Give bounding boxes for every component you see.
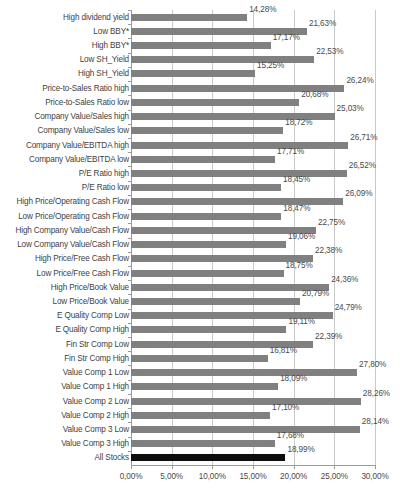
bar-value-label: 26,09% — [345, 189, 372, 198]
y-axis-tick — [128, 408, 131, 409]
category-label: Low Price/Free Cash Flow — [0, 269, 129, 278]
category-label: P/E Ratio low — [0, 183, 129, 192]
y-axis-tick — [128, 152, 131, 153]
category-label: Company Value/EBITDA low — [0, 155, 129, 164]
bar-value-label: 26,52% — [349, 161, 376, 170]
category-label: Value Comp 2 High — [0, 411, 129, 420]
x-axis-tick — [294, 465, 295, 469]
y-axis-tick — [128, 323, 131, 324]
category-label: Value Comp 3 Low — [0, 425, 129, 434]
y-axis-tick — [128, 110, 131, 111]
plot-area: 14,28%21,63%17,17%22,53%15,25%26,24%20,6… — [131, 10, 375, 465]
category-label: Value Comp 3 High — [0, 439, 129, 448]
category-label: Fin Str Comp Low — [0, 340, 129, 349]
x-axis-tick — [172, 465, 173, 469]
bar — [131, 241, 286, 248]
x-axis-tick-label: 30,00% — [361, 472, 388, 482]
bar — [131, 70, 255, 77]
bar-value-label: 22,38% — [315, 246, 342, 255]
category-label: P/E Ratio high — [0, 169, 129, 178]
y-axis-tick — [128, 394, 131, 395]
bar-value-label: 19,11% — [288, 317, 315, 326]
x-axis-tick-label: 5,00% — [160, 472, 183, 482]
y-axis-tick — [128, 10, 131, 11]
bar — [131, 156, 275, 163]
category-label: Low Company Value/Cash Flow — [0, 240, 129, 249]
bar — [131, 99, 299, 106]
y-axis-tick — [128, 195, 131, 196]
y-axis-tick — [128, 223, 131, 224]
category-label: E Quality Comp Low — [0, 311, 129, 320]
bar — [131, 298, 300, 305]
y-axis-tick — [128, 351, 131, 352]
y-axis-tick — [128, 166, 131, 167]
bar-value-label: 17,71% — [277, 147, 304, 156]
x-axis-tick — [334, 465, 335, 469]
bar — [131, 426, 360, 433]
bar — [131, 198, 343, 205]
category-label: High Price/Operating Cash Flow — [0, 197, 129, 206]
bar — [131, 127, 283, 134]
category-label: High SH_Yield — [0, 69, 129, 78]
bar-value-label: 15,25% — [257, 61, 284, 70]
bar — [131, 398, 361, 405]
y-axis-tick — [128, 38, 131, 39]
y-axis-tick — [128, 294, 131, 295]
bar — [131, 184, 281, 191]
category-label: Company Value/EBITDA high — [0, 141, 129, 150]
y-axis-tick — [128, 380, 131, 381]
category-label: Company Value/Sales high — [0, 112, 129, 121]
x-axis-tick-label: 10,00% — [199, 472, 226, 482]
y-axis-tick — [128, 138, 131, 139]
bar-value-label: 17,68% — [277, 431, 304, 440]
y-axis-tick — [128, 181, 131, 182]
y-axis-tick — [128, 266, 131, 267]
category-label: High Price/Free Cash Flow — [0, 254, 129, 263]
x-axis-tick — [253, 465, 254, 469]
category-label: Low Price/Book Value — [0, 297, 129, 306]
bar-value-label: 24,79% — [335, 303, 362, 312]
bar-value-label: 28,14% — [362, 417, 389, 426]
bar — [131, 170, 347, 177]
bar-value-label: 18,99% — [287, 445, 314, 454]
category-label: E Quality Comp High — [0, 325, 129, 334]
bar-value-label: 18,47% — [283, 204, 310, 213]
bar-value-label: 18,72% — [285, 118, 312, 127]
y-axis-tick — [128, 252, 131, 253]
category-label: Low BBY* — [0, 27, 129, 36]
bar — [131, 284, 329, 291]
bar — [131, 412, 270, 419]
bar-value-label: 18,75% — [286, 261, 313, 270]
category-label: Low Price/Operating Cash Flow — [0, 212, 129, 221]
y-axis-tick — [128, 337, 131, 338]
category-label: High dividend yield — [0, 13, 129, 22]
bar-value-label: 16,81% — [270, 346, 297, 355]
bar — [131, 454, 285, 461]
y-axis-tick — [128, 451, 131, 452]
category-label: Value Comp 1 High — [0, 382, 129, 391]
bar-value-label: 17,17% — [273, 33, 300, 42]
bar-chart: High dividend yieldLow BBY*High BBY*Low … — [0, 0, 401, 496]
category-label: High Price/Book Value — [0, 283, 129, 292]
bar-value-label: 24,36% — [331, 275, 358, 284]
y-axis-tick — [128, 437, 131, 438]
x-axis-tick-label: 20,00% — [280, 472, 307, 482]
y-axis-tick — [128, 365, 131, 366]
bar — [131, 383, 278, 390]
bar — [131, 440, 275, 447]
y-axis-tick — [128, 24, 131, 25]
bar-value-label: 18,45% — [283, 175, 310, 184]
y-axis-tick — [128, 53, 131, 54]
x-axis-tick — [212, 465, 213, 469]
category-label: Price-to-Sales Ratio low — [0, 98, 129, 107]
bar — [131, 142, 348, 149]
y-axis-tick — [128, 422, 131, 423]
bar — [131, 270, 284, 277]
bar-value-label: 28,26% — [363, 389, 390, 398]
bar — [131, 369, 357, 376]
y-axis-tick — [128, 238, 131, 239]
y-axis-tick — [128, 209, 131, 210]
bar-value-label: 21,63% — [309, 19, 336, 28]
bar — [131, 14, 247, 21]
category-label: All Stocks — [0, 453, 129, 462]
